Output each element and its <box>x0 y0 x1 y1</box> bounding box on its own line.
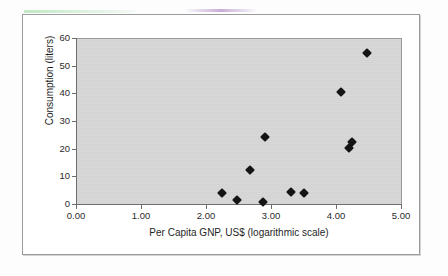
y-tick-10 <box>72 176 76 177</box>
plot-frame-top-edge <box>76 38 402 39</box>
y-axis-title: Consumption (liters) <box>44 11 55 151</box>
x-tick-label-4.00: 4.00 <box>316 211 356 221</box>
y-tick-label-10: 10 <box>24 171 70 181</box>
x-tick-label-0.00: 0.00 <box>56 211 96 221</box>
scanned-page-background: 0102030405060 0.001.002.003.004.005.00 C… <box>0 0 448 276</box>
x-tick-4.00 <box>336 205 337 209</box>
x-tick-3.00 <box>271 205 272 209</box>
plot-area <box>76 38 401 204</box>
x-tick-0.00 <box>76 205 77 209</box>
scatter-chart: 0102030405060 0.001.002.003.004.005.00 C… <box>23 15 419 254</box>
x-tick-label-5.00: 5.00 <box>381 211 421 221</box>
y-tick-40 <box>72 93 76 94</box>
x-tick-label-3.00: 3.00 <box>251 211 291 221</box>
plot-frame-right-edge <box>401 38 402 205</box>
y-tick-60 <box>72 38 76 39</box>
scan-artifact-violet-stripe <box>186 9 256 12</box>
y-tick-label-0: 0 <box>24 199 70 209</box>
x-tick-label-1.00: 1.00 <box>121 211 161 221</box>
x-tick-1.00 <box>141 205 142 209</box>
y-tick-50 <box>72 66 76 67</box>
scan-artifact-green-stripe <box>24 10 134 13</box>
x-tick-label-2.00: 2.00 <box>186 211 226 221</box>
x-tick-2.00 <box>206 205 207 209</box>
y-tick-20 <box>72 149 76 150</box>
y-tick-30 <box>72 121 76 122</box>
x-axis-title: Per Capita GNP, US$ (logarithmic scale) <box>76 227 402 238</box>
y-axis-line <box>76 38 77 205</box>
figure-frame: 0102030405060 0.001.002.003.004.005.00 C… <box>22 14 420 255</box>
x-axis-line <box>76 204 402 205</box>
x-tick-5.00 <box>401 205 402 209</box>
